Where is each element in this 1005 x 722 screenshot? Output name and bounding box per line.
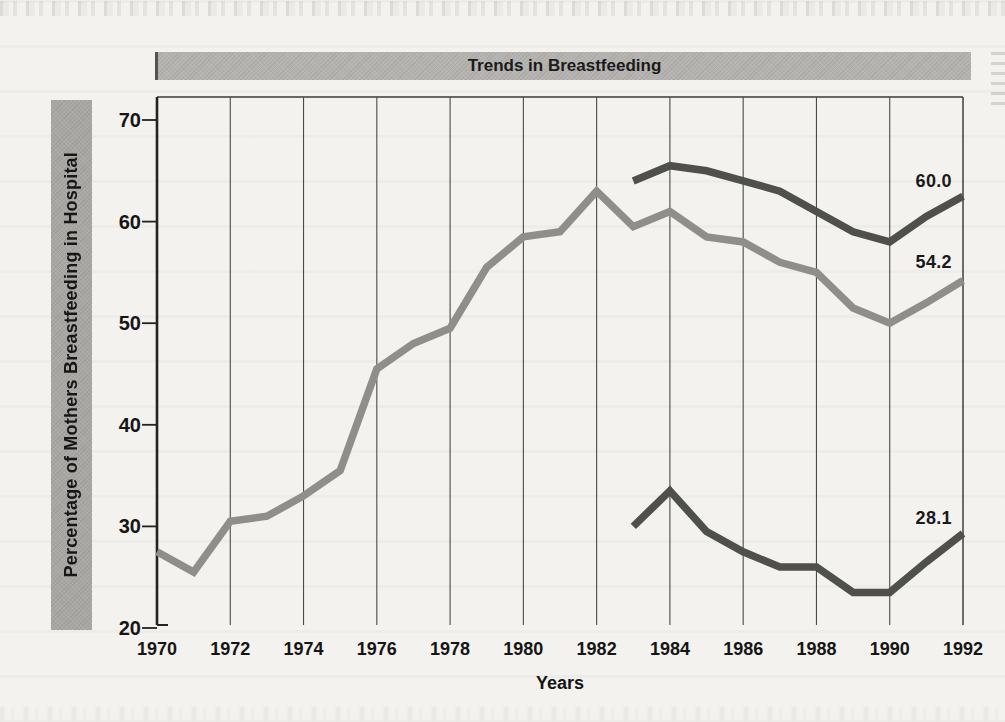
line-end-label-28-1: 28.1 xyxy=(916,509,952,527)
y-tick-label-40: 40 xyxy=(97,415,141,435)
y-tick-label-30: 30 xyxy=(97,516,141,536)
x-tick-label-1980: 1980 xyxy=(503,640,543,658)
y-tick-label-70: 70 xyxy=(97,110,141,130)
x-tick-label-1992: 1992 xyxy=(943,640,983,658)
x-axis-title: Years xyxy=(536,673,584,694)
x-tick-label-1974: 1974 xyxy=(284,640,324,658)
x-tick-label-1990: 1990 xyxy=(870,640,910,658)
x-tick-label-1988: 1988 xyxy=(796,640,836,658)
x-tick-label-1982: 1982 xyxy=(577,640,617,658)
x-tick-label-1984: 1984 xyxy=(650,640,690,658)
x-tick-label-1976: 1976 xyxy=(357,640,397,658)
series-dark-upper-line-1983-1992 xyxy=(633,166,963,242)
y-tick-label-60: 60 xyxy=(97,212,141,232)
x-tick-label-1972: 1972 xyxy=(210,640,250,658)
y-tick-label-20: 20 xyxy=(97,618,141,638)
series-dark-lower-line-1983-1992 xyxy=(633,491,963,593)
line-end-label-54-2: 54.2 xyxy=(916,253,952,271)
x-tick-label-1986: 1986 xyxy=(723,640,763,658)
x-tick-label-1970: 1970 xyxy=(137,640,177,658)
plot-area xyxy=(0,0,1005,722)
line-end-label-60-0: 60.0 xyxy=(916,172,952,190)
series-gray-line-1970-1992 xyxy=(157,191,963,572)
x-tick-label-1978: 1978 xyxy=(430,640,470,658)
scanned-book-page: Trends in Breastfeeding Percentage of Mo… xyxy=(0,0,1005,722)
y-tick-label-50: 50 xyxy=(97,313,141,333)
